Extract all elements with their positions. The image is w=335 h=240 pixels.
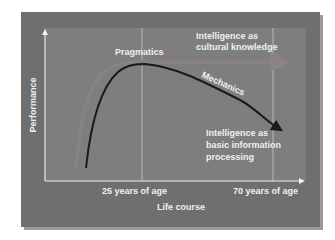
cultural-knowledge-line1: Intelligence as	[196, 31, 258, 42]
basic-processing-line1: Intelligence as	[206, 128, 268, 139]
y-axis-label: Performance	[28, 75, 38, 135]
x-axis-label: Life course	[157, 202, 205, 213]
basic-processing-line3: processing	[206, 152, 254, 163]
basic-processing-line2: basic information	[206, 140, 281, 151]
x-tick-25-years: 25 years of age	[102, 186, 167, 197]
cultural-knowledge-line2: cultural knowledge	[196, 42, 278, 53]
x-tick-70-years: 70 years of age	[233, 186, 298, 197]
pragmatics-label: Pragmatics	[115, 47, 164, 58]
